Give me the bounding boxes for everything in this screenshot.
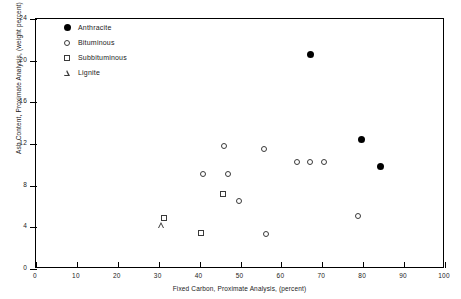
data-point-bituminous (263, 231, 269, 237)
data-point-bituminous (236, 198, 242, 204)
x-tick (404, 262, 405, 268)
y-tick-label: 4 (8, 222, 27, 229)
data-point-bituminous (294, 159, 300, 165)
legend-item-lignite[interactable]: Lignite (60, 65, 127, 80)
data-point-subbituminous (220, 191, 226, 197)
data-point-bituminous (200, 171, 206, 177)
data-point-anthracite (307, 51, 314, 58)
legend-item-bituminous[interactable]: Bituminous (60, 35, 127, 50)
legend-item-label: Lignite (74, 69, 100, 76)
y-tick (30, 144, 37, 145)
y-tick-label: 12 (8, 139, 27, 146)
y-tick (30, 269, 37, 270)
y-tick-label: 0 (8, 264, 27, 271)
y-tick (30, 227, 37, 228)
legend-item-label: Subbituminous (74, 54, 127, 61)
x-tick-label: 50 (227, 272, 253, 279)
x-tick (77, 262, 78, 268)
open-square-icon (60, 52, 74, 64)
y-tick-label: 16 (8, 97, 27, 104)
y-tick (30, 19, 37, 20)
data-point-bituminous (321, 159, 327, 165)
open-circle-icon (60, 37, 74, 49)
x-tick-label: 0 (22, 272, 48, 279)
x-tick (36, 262, 37, 268)
data-point-bituminous (221, 143, 227, 149)
x-tick (159, 262, 160, 268)
x-tick (281, 262, 282, 268)
data-point-lignite (158, 222, 164, 228)
x-tick-label: 20 (104, 272, 130, 279)
legend-item-subbituminous[interactable]: Subbituminous (60, 50, 127, 65)
open-triangle-icon (60, 67, 74, 79)
data-point-subbituminous (198, 230, 204, 236)
y-tick (30, 186, 37, 187)
x-tick-label: 100 (431, 272, 457, 279)
x-tick (322, 262, 323, 268)
x-axis-title: Fixed Carbon, Proximate Analysis, (perce… (35, 285, 444, 292)
x-tick (200, 262, 201, 268)
scatter-chart-figure: Ash Content, Proximate Analysis, (weight… (0, 0, 461, 299)
chart-legend: AnthraciteBituminousSubbituminousLignite (60, 20, 127, 80)
data-point-bituminous (307, 159, 313, 165)
x-tick-label: 60 (267, 272, 293, 279)
data-point-anthracite (358, 136, 365, 143)
x-tick-label: 30 (145, 272, 171, 279)
legend-item-anthracite[interactable]: Anthracite (60, 20, 127, 35)
x-tick (363, 262, 364, 268)
y-tick-label: 20 (8, 56, 27, 63)
y-tick (30, 102, 37, 103)
data-point-bituminous (261, 146, 267, 152)
x-tick-label: 70 (308, 272, 334, 279)
data-point-anthracite (377, 163, 384, 170)
data-point-bituminous (225, 171, 231, 177)
x-tick (241, 262, 242, 268)
data-point-bituminous (355, 213, 361, 219)
x-tick-label: 80 (349, 272, 375, 279)
x-tick (118, 262, 119, 268)
legend-item-label: Anthracite (74, 24, 112, 31)
legend-item-label: Bituminous (74, 39, 115, 46)
data-point-subbituminous (161, 215, 167, 221)
y-tick-label: 24 (8, 14, 27, 21)
x-tick (445, 262, 446, 268)
y-tick (30, 61, 37, 62)
x-tick-label: 90 (390, 272, 416, 279)
x-tick-label: 10 (63, 272, 89, 279)
y-tick-label: 8 (8, 181, 27, 188)
x-tick-label: 40 (186, 272, 212, 279)
filled-circle-icon (60, 22, 74, 34)
